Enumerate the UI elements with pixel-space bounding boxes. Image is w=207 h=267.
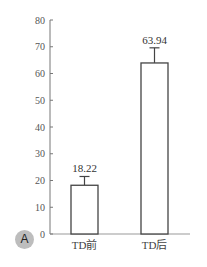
y-tick-label: 40 bbox=[35, 122, 45, 133]
y-tick-label: 60 bbox=[35, 68, 45, 79]
y-tick-label: 80 bbox=[35, 15, 45, 26]
panel-label-badge: A bbox=[15, 230, 34, 249]
x-category-label: TD前 bbox=[72, 238, 98, 251]
y-tick-label: 10 bbox=[35, 202, 45, 213]
bar bbox=[71, 185, 98, 234]
y-tick-label: 70 bbox=[35, 41, 45, 52]
y-tick-label: 20 bbox=[35, 175, 45, 186]
data-label: 63.94 bbox=[142, 34, 167, 46]
data-label: 18.22 bbox=[72, 162, 97, 174]
bar-chart: 0102030405060708018.22TD前63.94TD后 bbox=[0, 0, 207, 267]
y-tick-label: 30 bbox=[35, 148, 45, 159]
bar bbox=[141, 63, 168, 234]
y-tick-label: 50 bbox=[35, 95, 45, 106]
x-category-label: TD后 bbox=[142, 239, 168, 251]
y-tick-label: 0 bbox=[40, 229, 45, 240]
